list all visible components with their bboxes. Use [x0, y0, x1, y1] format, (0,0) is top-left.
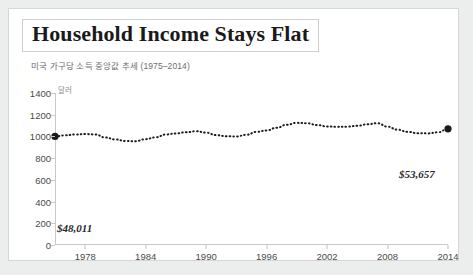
x-axis-tick: 2002: [316, 251, 337, 262]
chart-subtitle: 미국 가구당 소득 중앙값 추세 (1975–2014): [31, 59, 190, 71]
income-dotted-line: [55, 123, 448, 141]
x-axis-tick-mark: [266, 245, 267, 249]
y-axis-tick-mark: [51, 223, 55, 224]
y-axis-tick-mark: [51, 136, 55, 137]
y-axis-tick-mark: [51, 245, 55, 246]
chart-card: Household Income Stays Flat 미국 가구당 소득 중앙…: [8, 8, 459, 261]
y-axis-tick-mark: [51, 115, 55, 116]
y-axis-tick-mark: [51, 158, 55, 159]
page-title: Household Income Stays Flat: [32, 22, 309, 47]
y-axis-tick: 1200: [21, 109, 51, 120]
x-axis-tick: 1978: [75, 251, 96, 262]
x-axis-tick-mark: [206, 245, 207, 249]
title-box: Household Income Stays Flat: [22, 19, 319, 52]
end-value-annotation: $53,657: [399, 168, 435, 180]
y-axis-tick-mark: [51, 202, 55, 203]
x-axis-tick: 2014: [437, 251, 458, 262]
y-axis-tick: 1000: [21, 131, 51, 142]
x-axis-tick-mark: [85, 245, 86, 249]
x-axis-tick: 1984: [135, 251, 156, 262]
y-axis-tick: 0: [21, 240, 51, 251]
chart-axes: 1978198419901996200220082014: [55, 77, 452, 262]
y-axis-tick: 600: [21, 174, 51, 185]
x-axis-tick-mark: [448, 245, 449, 249]
income-line-series: [55, 77, 452, 262]
y-axis-tick: 200: [21, 218, 51, 229]
y-axis-tick-labels: 0200400600800100012001400: [19, 77, 51, 262]
x-axis-tick-mark: [145, 245, 146, 249]
start-value-annotation: $48,011: [57, 222, 92, 234]
x-axis-tick: 2008: [377, 251, 398, 262]
chart-plot-area: 달러 0200400600800100012001400 19781984199…: [9, 77, 460, 262]
x-axis-tick: 1990: [196, 251, 217, 262]
x-axis-tick-mark: [327, 245, 328, 249]
y-axis-tick-mark: [51, 180, 55, 181]
x-axis-tick: 1996: [256, 251, 277, 262]
y-axis-tick: 400: [21, 196, 51, 207]
x-axis-tick-mark: [387, 245, 388, 249]
data-point-marker: [444, 125, 451, 132]
y-axis-tick-mark: [51, 93, 55, 94]
y-axis-tick: 800: [21, 153, 51, 164]
y-axis-tick: 1400: [21, 88, 51, 99]
